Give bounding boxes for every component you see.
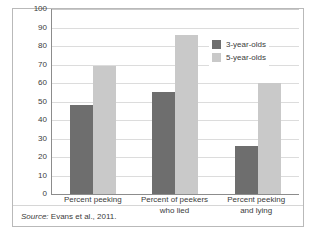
y-axis-tick-label: 70 bbox=[25, 61, 47, 69]
y-axis-tick-label: 10 bbox=[25, 172, 47, 180]
bar-group bbox=[134, 9, 216, 194]
y-axis-tick-label: 60 bbox=[25, 79, 47, 87]
source-divider bbox=[13, 205, 303, 206]
x-axis-category-label-line: and lying bbox=[215, 206, 297, 217]
bar[interactable] bbox=[152, 92, 175, 194]
y-axis-tick-label: 90 bbox=[25, 24, 47, 32]
x-axis-category-label-line: Percent of peekers bbox=[134, 195, 216, 206]
source-text: Evans et al., 2011. bbox=[51, 212, 117, 221]
y-axis-tick-label: 50 bbox=[25, 98, 47, 106]
y-axis-tick-label: 30 bbox=[25, 135, 47, 143]
source-label: Source: bbox=[21, 212, 49, 221]
y-axis-tick-labels: 0102030405060708090100 bbox=[23, 9, 47, 194]
x-axis-category-label-line: who lied bbox=[134, 206, 216, 217]
bar[interactable] bbox=[258, 83, 281, 194]
y-axis-tick-label: 20 bbox=[25, 153, 47, 161]
legend-item[interactable]: 3-year-olds bbox=[212, 38, 266, 51]
source-note: Source: Evans et al., 2011. bbox=[21, 212, 116, 221]
legend-swatch-icon bbox=[212, 40, 221, 49]
bar-group bbox=[52, 9, 134, 194]
bar[interactable] bbox=[235, 146, 258, 194]
bar[interactable] bbox=[175, 35, 198, 194]
y-axis-tick-label: 40 bbox=[25, 116, 47, 124]
figure-frame: 0102030405060708090100 Percent peekingPe… bbox=[12, 8, 304, 227]
chart-legend: 3-year-olds5-year-olds bbox=[209, 36, 269, 66]
legend-item-label: 3-year-olds bbox=[226, 40, 266, 49]
y-axis-tick-label: 0 bbox=[25, 190, 47, 198]
y-axis-tick-label: 80 bbox=[25, 42, 47, 50]
bar[interactable] bbox=[70, 105, 93, 194]
x-axis-category-label-line: Percent peeking bbox=[52, 195, 134, 206]
bar[interactable] bbox=[93, 66, 116, 194]
legend-item[interactable]: 5-year-olds bbox=[212, 51, 266, 64]
legend-swatch-icon bbox=[212, 53, 221, 62]
legend-item-label: 5-year-olds bbox=[226, 53, 266, 62]
x-axis-category-label-line: Percent peeking bbox=[215, 195, 297, 206]
y-axis-tick-label: 100 bbox=[25, 5, 47, 13]
